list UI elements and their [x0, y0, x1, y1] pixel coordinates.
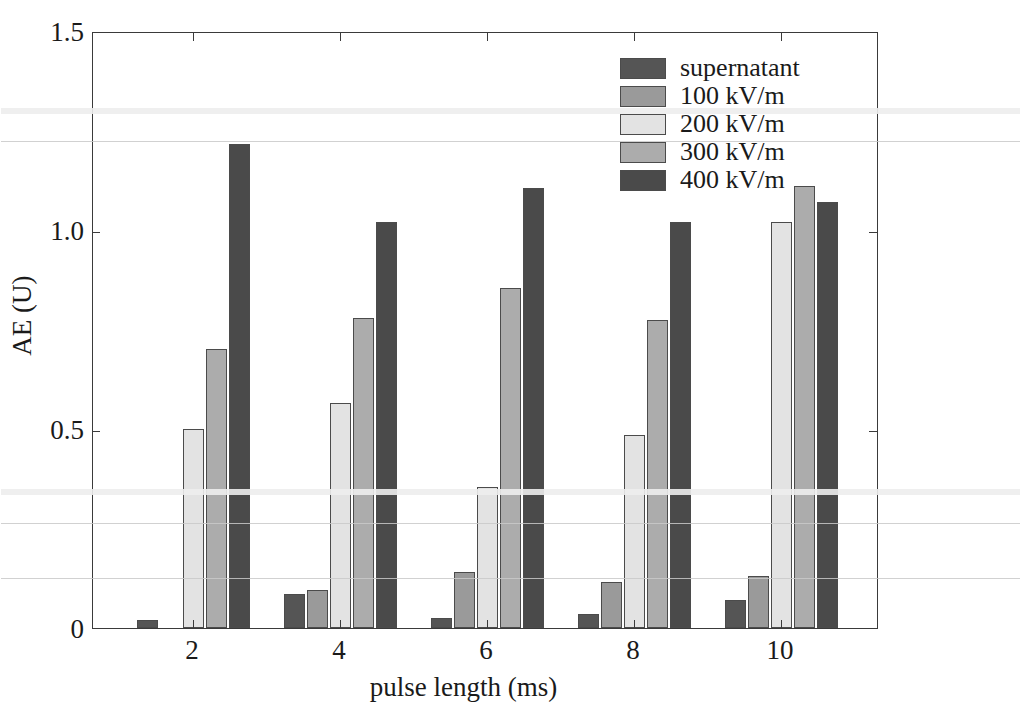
y-tick-mark: [93, 431, 100, 432]
scan-artifact-line: [1, 578, 1020, 579]
x-tick-label: 2: [185, 637, 199, 664]
legend-label: 400 kV/m: [680, 167, 785, 193]
legend-swatch: [620, 58, 666, 79]
scan-artifact-line: [1, 523, 1020, 524]
legend-item-300-kv-m: 300 kV/m: [620, 138, 872, 166]
legend-label: 100 kV/m: [680, 83, 785, 109]
bar-supernatant-4ms: [284, 594, 305, 628]
bar-100-kv-m-6ms: [454, 572, 475, 628]
legend-label: 300 kV/m: [680, 139, 785, 165]
scan-artifact-line: [1, 489, 1020, 495]
legend-label: supernatant: [680, 55, 800, 81]
y-tick-label: 0: [71, 616, 85, 643]
legend-swatch: [620, 142, 666, 163]
bar-200-kv-m-2ms: [183, 429, 204, 628]
x-tick-label: 6: [479, 637, 493, 664]
y-tick-label: 1.0: [50, 218, 84, 245]
bar-100-kv-m-4ms: [307, 590, 328, 628]
y-tick-mark-right: [869, 431, 877, 432]
bar-400-kv-m-10ms: [817, 202, 838, 628]
bar-400-kv-m-2ms: [229, 144, 250, 628]
bar-100-kv-m-8ms: [601, 582, 622, 628]
bar-supernatant-8ms: [578, 614, 599, 628]
legend-item-200-kv-m: 200 kV/m: [620, 110, 872, 138]
bar-supernatant-6ms: [431, 618, 452, 628]
x-tick-mark: [487, 620, 488, 628]
bar-400-kv-m-4ms: [376, 222, 397, 628]
y-axis-title: AE (U): [7, 146, 38, 486]
x-tick-mark-top: [634, 33, 635, 41]
legend-swatch: [620, 114, 666, 135]
legend-item-400-kv-m: 400 kV/m: [620, 166, 872, 194]
bar-300-kv-m-8ms: [647, 320, 668, 628]
bar-supernatant-2ms: [137, 620, 158, 628]
bar-300-kv-m-4ms: [353, 318, 374, 628]
bar-200-kv-m-10ms: [771, 222, 792, 628]
x-tick-label: 4: [332, 637, 346, 664]
x-tick-mark: [193, 620, 194, 628]
x-tick-label: 10: [767, 637, 794, 664]
x-tick-mark: [634, 620, 635, 628]
legend-label: 200 kV/m: [680, 111, 785, 137]
bar-400-kv-m-6ms: [523, 188, 544, 628]
legend-item-supernatant: supernatant: [620, 54, 872, 82]
x-tick-label: 8: [626, 637, 640, 664]
legend-swatch: [620, 86, 666, 107]
x-tick-mark-top: [193, 33, 194, 41]
bar-200-kv-m-6ms: [477, 487, 498, 628]
y-tick-label: 1.5: [50, 19, 84, 46]
legend-item-100-kv-m: 100 kV/m: [620, 82, 872, 110]
bar-400-kv-m-8ms: [670, 222, 691, 628]
x-tick-mark-top: [781, 33, 782, 41]
chart-legend: supernatant100 kV/m200 kV/m300 kV/m400 k…: [620, 54, 872, 194]
y-tick-label: 0.5: [50, 417, 84, 444]
bar-200-kv-m-4ms: [330, 403, 351, 628]
x-tick-mark: [340, 620, 341, 628]
legend-swatch: [620, 170, 666, 191]
x-tick-mark-top: [340, 33, 341, 41]
y-tick-mark: [93, 232, 100, 233]
bar-supernatant-10ms: [725, 600, 746, 628]
y-tick-mark-right: [869, 232, 877, 233]
bar-300-kv-m-10ms: [794, 186, 815, 628]
x-tick-mark: [781, 620, 782, 628]
bar-100-kv-m-10ms: [748, 576, 769, 628]
x-axis-title: pulse length (ms): [0, 672, 927, 703]
bar-300-kv-m-6ms: [500, 288, 521, 628]
bar-200-kv-m-8ms: [624, 435, 645, 628]
x-tick-mark-top: [487, 33, 488, 41]
